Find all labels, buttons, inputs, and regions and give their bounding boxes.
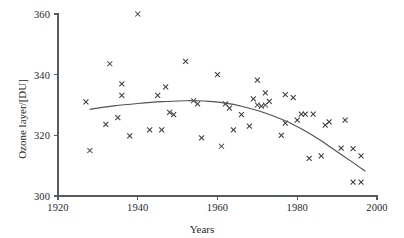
x-tick-label: 1920 bbox=[47, 202, 68, 213]
data-point-marker bbox=[83, 99, 88, 104]
y-tick-label: 360 bbox=[0, 9, 50, 20]
data-point-marker bbox=[183, 59, 188, 64]
data-point-marker bbox=[359, 153, 364, 158]
x-axis-title: Years bbox=[0, 223, 404, 235]
data-point-marker bbox=[351, 146, 356, 151]
data-point-marker bbox=[87, 148, 92, 153]
data-point-marker bbox=[279, 133, 284, 138]
data-point-marker bbox=[267, 99, 272, 104]
trend-curve bbox=[90, 101, 365, 171]
x-tick-label: 1940 bbox=[127, 202, 148, 213]
data-point-marker bbox=[119, 81, 124, 86]
data-point-marker bbox=[311, 112, 316, 117]
y-tick-label: 300 bbox=[0, 191, 50, 202]
data-point-marker bbox=[339, 146, 344, 151]
data-point-marker bbox=[215, 72, 220, 77]
data-point-marker bbox=[291, 95, 296, 100]
data-point-marker bbox=[259, 104, 264, 109]
axes-group bbox=[54, 13, 378, 200]
data-point-marker bbox=[263, 90, 268, 95]
data-point-marker bbox=[163, 84, 168, 89]
data-point-marker bbox=[343, 118, 348, 123]
data-point-marker bbox=[303, 112, 308, 117]
data-point-marker bbox=[147, 127, 152, 132]
data-point-marker bbox=[295, 118, 300, 123]
data-point-marker bbox=[103, 122, 108, 127]
data-point-marker bbox=[135, 12, 140, 17]
data-point-marker bbox=[107, 61, 112, 66]
data-point-marker bbox=[359, 180, 364, 185]
data-point-marker bbox=[323, 123, 328, 128]
data-point-marker bbox=[247, 124, 252, 129]
data-point-marker bbox=[199, 135, 204, 140]
data-point-marker bbox=[251, 96, 256, 101]
y-axis-title: Ozone layer/[DU] bbox=[16, 59, 28, 179]
data-point-marker bbox=[115, 115, 120, 120]
data-point-marker bbox=[255, 103, 260, 108]
data-point-marker bbox=[327, 119, 332, 124]
data-point-marker bbox=[227, 106, 232, 111]
data-point-marker bbox=[307, 156, 312, 161]
data-point-marker bbox=[231, 127, 236, 132]
data-markers-group bbox=[83, 12, 363, 185]
data-point-marker bbox=[319, 153, 324, 158]
data-point-marker bbox=[255, 78, 260, 83]
data-point-marker bbox=[239, 112, 244, 117]
ozone-scatter-chart: 300320340360 19201940196019802000 Years … bbox=[0, 0, 404, 238]
data-point-marker bbox=[219, 144, 224, 149]
data-point-marker bbox=[351, 180, 356, 185]
data-point-marker bbox=[127, 133, 132, 138]
data-point-marker bbox=[159, 127, 164, 132]
x-tick-label: 2000 bbox=[366, 202, 387, 213]
data-point-marker bbox=[195, 101, 200, 106]
data-point-marker bbox=[119, 93, 124, 98]
x-tick-label: 1960 bbox=[207, 202, 228, 213]
data-point-marker bbox=[283, 92, 288, 97]
data-point-marker bbox=[155, 93, 160, 98]
x-tick-label: 1980 bbox=[287, 202, 308, 213]
